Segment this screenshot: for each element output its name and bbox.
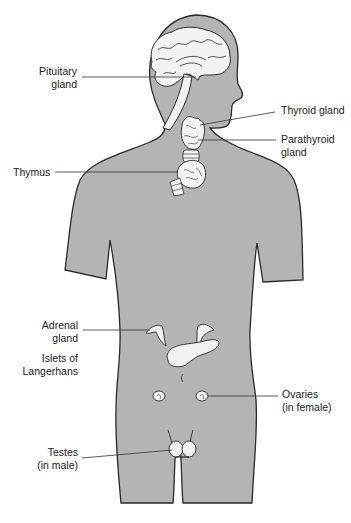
label-line: gland <box>281 146 335 159</box>
label-line: Testes <box>20 446 78 459</box>
label-line: Adrenal <box>20 319 78 332</box>
label-line: Parathyroid <box>281 133 335 146</box>
label-line: Thymus <box>13 166 50 179</box>
label-ovaries: Ovaries (in female) <box>282 388 332 414</box>
label-testes: Testes (in male) <box>20 446 78 472</box>
label-line: gland <box>20 78 77 91</box>
label-line: Thyroid gland <box>281 104 345 117</box>
label-line: Pituitary <box>20 65 77 78</box>
label-line: Islets of <box>10 352 78 365</box>
label-line: (in female) <box>282 401 332 414</box>
label-parathyroid-gland: Parathyroid gland <box>281 133 335 159</box>
label-pituitary-gland: Pituitary gland <box>20 65 77 91</box>
label-line: gland <box>20 332 78 345</box>
thyroid-icon <box>181 117 204 150</box>
label-thyroid-gland: Thyroid gland <box>281 104 345 117</box>
label-line: Ovaries <box>282 388 332 401</box>
label-thymus: Thymus <box>13 166 50 179</box>
label-line: (in male) <box>20 459 78 472</box>
label-adrenal-gland: Adrenal gland <box>20 319 78 345</box>
label-islets-of-langerhans: Islets of Langerhans <box>10 352 78 378</box>
label-line: Langerhans <box>10 365 78 378</box>
